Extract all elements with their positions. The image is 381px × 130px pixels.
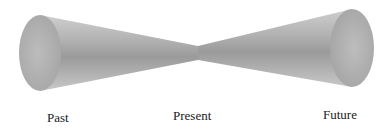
label-past: Past [47, 110, 69, 126]
past-cone [40, 15, 198, 91]
time-cone-diagram: Past Present Future [0, 0, 381, 130]
future-end-cap [330, 9, 374, 87]
label-future: Future [323, 107, 357, 123]
label-present: Present [173, 108, 211, 124]
past-end-cap [19, 15, 61, 91]
future-cone [198, 9, 352, 87]
